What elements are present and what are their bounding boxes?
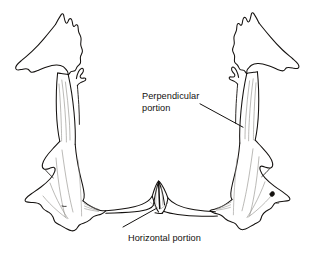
- horizontal-plate-left-upper: [106, 196, 152, 211]
- left-perpendicular-shaft-medial: [68, 75, 75, 145]
- right-perpendicular-shaft-medial: [240, 73, 247, 143]
- right-shaft-striations: [245, 79, 256, 141]
- nasal-crest-right-slope: [159, 182, 168, 199]
- nasal-crest-median-suture: [159, 181, 160, 208]
- horizontal-label-line1: Horizontal portion: [128, 233, 201, 243]
- perpendicular-label-line2: portion: [142, 103, 170, 113]
- right-upper-wing-lateral: [247, 23, 299, 73]
- left-sphenoidal-process: [76, 68, 85, 85]
- label-perpendicular-portion: Perpendicular portion: [142, 91, 199, 113]
- right-base-medial-outline: [231, 143, 240, 200]
- left-base-notch-detail: [45, 170, 53, 178]
- right-shaft-upper-notch: [247, 72, 258, 74]
- left-palatine-bone: [16, 14, 106, 231]
- perpendicular-leader-line: [200, 104, 243, 127]
- nasal-crest-underside: [155, 213, 163, 214]
- left-base-medial-outline: [75, 144, 84, 201]
- horizontal-plate-group: [106, 181, 218, 216]
- horizontal-plate-right-lower: [164, 211, 217, 216]
- left-perpendicular-shaft-lateral: [56, 73, 60, 141]
- horizontal-plate-right-upper: [168, 198, 215, 212]
- right-junction-fan-lines: [216, 202, 231, 210]
- right-perpendicular-shaft-lateral: [255, 72, 259, 140]
- left-shaft-upper-notch: [58, 73, 69, 75]
- greater-palatine-foramen: [270, 192, 274, 197]
- right-horizontal-junction: [210, 200, 232, 211]
- anatomical-figure: Perpendicular portion Horizontal portion: [0, 0, 318, 259]
- perpendicular-label-line1: Perpendicular: [142, 91, 199, 101]
- right-base-notch-detail: [262, 168, 270, 176]
- left-upper-wing-lateral: [16, 25, 68, 75]
- right-sphenoidal-process: [229, 67, 238, 84]
- horizontal-plate-left-lower: [106, 205, 154, 213]
- right-base-shading: [233, 149, 272, 218]
- right-base-lateral-outline: [210, 140, 290, 229]
- left-shaft-striations: [59, 80, 70, 142]
- right-palatine-bone: [210, 13, 299, 230]
- left-hook-inner-line: [77, 85, 79, 124]
- right-hook-inner-line: [236, 84, 238, 123]
- left-base-shading: [43, 150, 82, 219]
- label-horizontal-portion: Horizontal portion: [128, 233, 201, 243]
- left-junction-fan-lines: [84, 203, 99, 211]
